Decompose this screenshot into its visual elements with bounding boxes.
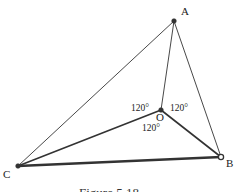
figure-caption: Figure 5.18 <box>79 185 139 192</box>
segments <box>18 21 221 166</box>
segment-ob <box>161 110 221 157</box>
angle-label-aoc: 120° <box>131 103 149 113</box>
point-label-c: C <box>3 168 10 180</box>
point-label-a: A <box>181 5 189 17</box>
fermat-point-diagram: A B C O 120° 120° 120° Figure 5.18 <box>0 0 236 192</box>
segment-cb <box>18 157 221 166</box>
points <box>16 19 224 169</box>
segment-ao <box>161 21 174 110</box>
segment-ab <box>174 21 221 157</box>
segment-oc <box>18 110 161 166</box>
point-c <box>16 164 21 169</box>
point-b <box>218 154 223 159</box>
angle-label-aob: 120° <box>170 103 188 113</box>
point-a <box>172 19 177 24</box>
point-label-o: O <box>156 111 164 123</box>
segment-ac <box>18 21 174 166</box>
point-label-b: B <box>226 157 233 169</box>
angle-label-boc: 120° <box>142 123 160 133</box>
